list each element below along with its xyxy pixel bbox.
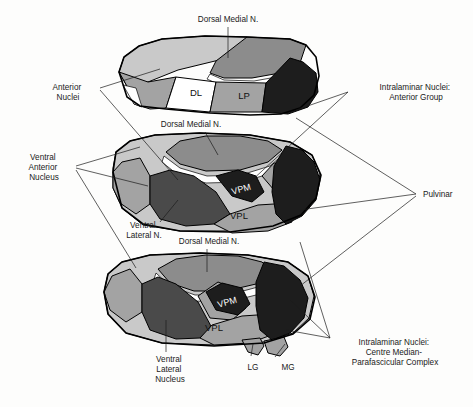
label-lp: LP bbox=[238, 90, 250, 101]
callout-pulvinar: Pulvinar bbox=[423, 190, 453, 199]
specimen-top bbox=[119, 36, 319, 115]
callout-ventral-anterior-nucleus: Ventral Anterior Nucleus bbox=[29, 153, 60, 182]
callout-ventral-lateral-nucleus: Ventral Lateral Nucleus bbox=[155, 355, 185, 384]
label-vpl-bottom: VPL bbox=[205, 322, 223, 333]
callout-dorsal-medial-n-top: Dorsal Medial N. bbox=[198, 15, 259, 24]
callout-ventral-lateral-n: Ventral Lateral N. bbox=[126, 221, 162, 240]
callout-anterior-nuclei: Anterior Nuclei bbox=[53, 83, 84, 102]
callout-intralaminar-anterior-group: Intralaminar Nuclei: Anterior Group bbox=[380, 83, 453, 102]
label-vpl-middle: VPL bbox=[230, 210, 248, 221]
callout-intralaminar-centre-median: Intralaminar Nuclei: Centre Median- Para… bbox=[352, 338, 438, 367]
label-dl: DL bbox=[190, 87, 202, 98]
leader-pulvinar-c bbox=[300, 196, 416, 286]
callout-dorsal-medial-n-middle: Dorsal Medial N. bbox=[161, 120, 222, 129]
thalamic-nuclei-diagram: Dorsal Medial N. Anterior Nuclei Intrala… bbox=[0, 0, 473, 407]
callout-lg: LG bbox=[248, 363, 259, 372]
figure-canvas: Dorsal Medial N. Anterior Nuclei Intrala… bbox=[0, 0, 473, 407]
middle-ventral-anterior-nucleus-region bbox=[113, 158, 150, 214]
specimen-middle bbox=[113, 133, 321, 233]
bottom-lg-region bbox=[242, 338, 264, 355]
callout-mg: MG bbox=[281, 363, 294, 372]
callout-dorsal-medial-n-bottom: Dorsal Medial N. bbox=[179, 237, 240, 246]
specimen-bottom bbox=[104, 253, 315, 356]
leader-pulvinar-a bbox=[300, 194, 416, 210]
